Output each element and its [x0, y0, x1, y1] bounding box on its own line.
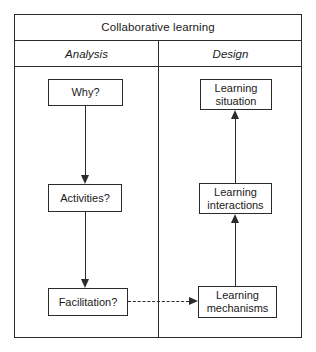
edge-interactions-to-situation-arrowhead-icon — [231, 110, 239, 119]
node-learning-situation-label-line1: Learning — [215, 82, 258, 95]
diagram-title-row: Collaborative learning — [14, 14, 302, 41]
column-header-analysis: Analysis — [14, 41, 159, 66]
node-learning-situation[interactable]: Learning situation — [200, 79, 272, 110]
node-activities-label: Activities? — [60, 192, 110, 205]
node-learning-interactions-label-line2: interactions — [207, 199, 263, 212]
edge-why-to-activities-line — [85, 106, 86, 178]
node-learning-mechanisms-label-line1: Learning — [207, 289, 269, 302]
column-header-design: Design — [159, 41, 302, 66]
edge-interactions-to-situation-line — [235, 119, 236, 183]
edge-mechanisms-to-interactions-arrowhead-icon — [231, 214, 239, 223]
collaborative-learning-diagram: Collaborative learning Analysis Design W… — [0, 0, 316, 352]
node-activities[interactable]: Activities? — [48, 184, 122, 212]
edge-activities-to-facilitation-arrowhead-icon — [81, 279, 89, 288]
node-learning-situation-label-line2: situation — [215, 95, 258, 108]
edge-why-to-activities-arrowhead-icon — [81, 175, 89, 184]
edge-facilitation-to-mechanisms-arrowhead-icon — [189, 297, 198, 305]
edge-facilitation-to-mechanisms-line — [128, 301, 189, 302]
page-title: Collaborative learning — [101, 21, 214, 33]
edge-activities-to-facilitation-line — [85, 212, 86, 282]
node-facilitation-label: Facilitation? — [59, 296, 118, 309]
node-why-label: Why? — [71, 86, 99, 99]
node-facilitation[interactable]: Facilitation? — [48, 288, 128, 316]
node-why[interactable]: Why? — [48, 79, 123, 106]
node-learning-mechanisms[interactable]: Learning mechanisms — [198, 286, 277, 318]
column-divider — [158, 41, 159, 338]
edge-mechanisms-to-interactions-line — [235, 222, 236, 286]
node-learning-interactions-label-line1: Learning — [207, 186, 263, 199]
node-learning-mechanisms-label-line2: mechanisms — [207, 302, 269, 315]
node-learning-interactions[interactable]: Learning interactions — [199, 183, 272, 214]
